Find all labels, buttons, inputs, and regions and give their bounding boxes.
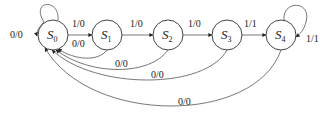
- label-s2-s0: 0/0: [115, 58, 128, 69]
- state-s3: S3: [212, 20, 242, 50]
- label-s4-s4: 1/1: [306, 33, 319, 44]
- edge-s2-s0: [56, 50, 168, 70]
- label-s4-s0: 0/0: [178, 96, 191, 107]
- label-s3-s0: 0/0: [151, 69, 164, 80]
- label-s3-s4: 1/1: [244, 18, 257, 29]
- edge-s0-s0: [40, 4, 58, 22]
- edge-s1-s0: [58, 49, 107, 58]
- state-diagram: S0 S1 S2 S3 S4 0/0 1/0 0/0 1/0 0/0 1/0 0…: [0, 0, 329, 121]
- label-s0-s1: 1/0: [72, 18, 85, 29]
- state-s0: S0: [38, 20, 68, 50]
- state-s1: S1: [92, 20, 122, 50]
- edge-s3-s0: [52, 50, 227, 80]
- state-s2: S2: [153, 20, 183, 50]
- label-s0-s0: 0/0: [10, 29, 23, 40]
- label-s1-s0: 0/0: [72, 38, 85, 49]
- label-s1-s2: 1/0: [130, 18, 143, 29]
- state-s4: S4: [266, 20, 296, 50]
- label-s2-s3: 1/0: [188, 18, 201, 29]
